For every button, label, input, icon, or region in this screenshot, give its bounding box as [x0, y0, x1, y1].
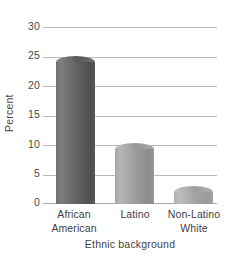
bar-chart: Percent 30 25 20 15 10 5 0 [0, 0, 227, 260]
category-label-line: White [158, 222, 227, 236]
category-label-line: African [39, 208, 109, 222]
y-axis-tick-labels: 30 25 20 15 10 5 0 [22, 0, 40, 210]
y-tick-label: 5 [22, 168, 40, 179]
x-axis-title: Ethnic background [43, 238, 217, 250]
category-label-line: Non-Latino [158, 208, 227, 222]
bar-body [56, 62, 95, 204]
x-axis-category-labels: African American Latino Non-Latino White [43, 208, 227, 240]
category-label-african-american: African American [39, 208, 109, 235]
y-tick-label: 25 [22, 50, 40, 61]
y-tick-label: 30 [22, 21, 40, 32]
plot-area [43, 27, 217, 204]
y-tick-label: 15 [22, 109, 40, 120]
y-tick-label: 10 [22, 139, 40, 150]
category-label-non-latino-white: Non-Latino White [158, 208, 227, 235]
bar-body [115, 149, 154, 204]
bar-non-latino-white [174, 192, 213, 204]
bars-group [43, 27, 217, 204]
bar-latino [115, 149, 154, 204]
y-tick-label: 0 [22, 197, 40, 208]
category-label-line: American [39, 222, 109, 236]
bar-african-american [56, 62, 95, 204]
y-tick-label: 20 [22, 80, 40, 91]
bar-body [174, 192, 213, 204]
y-axis-title: Percent [0, 78, 18, 148]
